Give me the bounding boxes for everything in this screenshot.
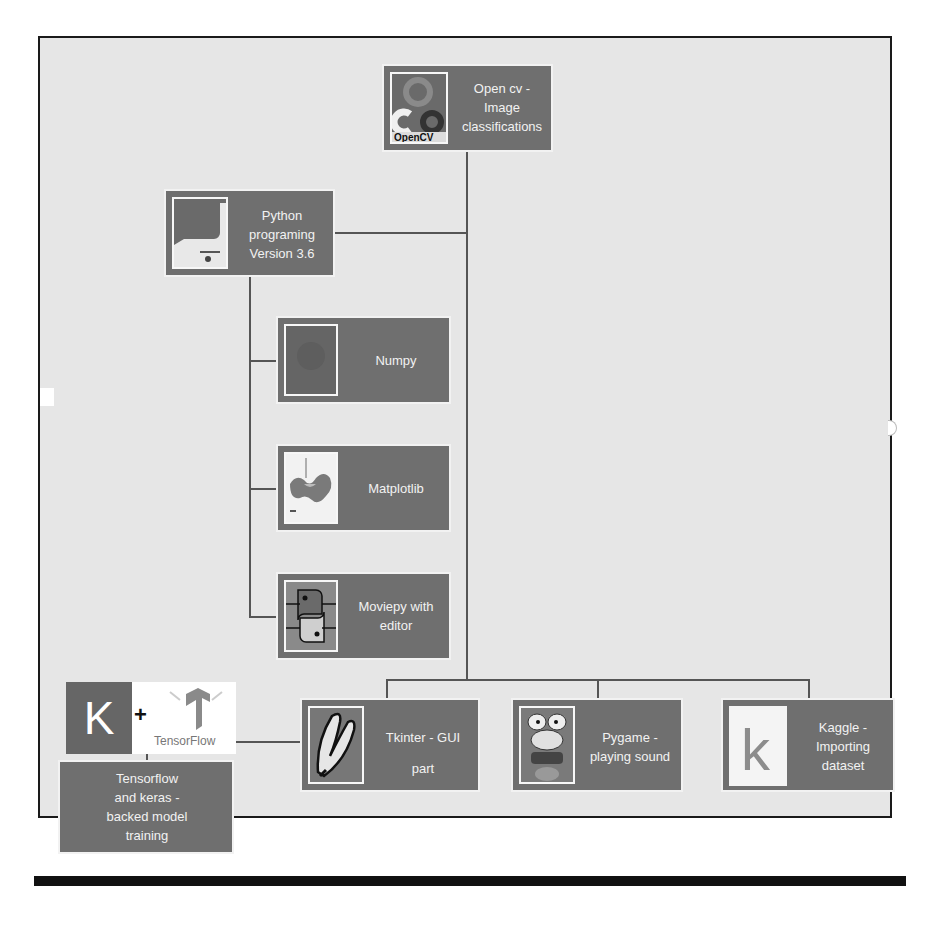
bottom-rule-divider xyxy=(34,876,906,886)
tensorflow-wordmark: TensorFlow xyxy=(154,734,215,748)
node-label-line: Tkinter - GUI xyxy=(370,728,476,747)
opencv-logo-icon: OpenCV xyxy=(390,72,448,144)
node-pygame[interactable]: Pygame - playing sound xyxy=(511,698,683,792)
connector-opencv-trunk xyxy=(466,150,468,680)
connector-kaggle xyxy=(808,679,810,699)
node-label-line: Numpy xyxy=(344,351,448,370)
node-label-line: editor xyxy=(344,616,448,635)
node-label-line: training xyxy=(64,826,230,845)
node-label-line: Importing xyxy=(793,737,893,756)
connector-tensorflow-tkinter xyxy=(234,741,302,743)
node-label-line: part xyxy=(370,759,476,778)
tensorflow-logo-icon xyxy=(166,686,226,732)
kaggle-k-icon: k xyxy=(729,706,787,786)
node-opencv[interactable]: OpenCV Open cv - Image classifications xyxy=(382,64,553,152)
plus-sign: + xyxy=(134,702,148,728)
connector-matplotlib xyxy=(249,488,277,490)
svg-text:k: k xyxy=(741,717,771,782)
node-label-line: Open cv - xyxy=(454,79,550,98)
node-label-line: programing xyxy=(232,225,332,244)
node-label-line: classifications xyxy=(454,117,550,136)
node-label-line: dataset xyxy=(793,756,893,775)
connector-pygame xyxy=(597,679,599,699)
node-label-line: Version 3.6 xyxy=(232,244,332,263)
matplotlib-plot-icon xyxy=(284,452,338,524)
node-label-line: Kaggle - xyxy=(793,718,893,737)
connector-numpy xyxy=(249,360,277,362)
node-numpy[interactable]: Numpy xyxy=(276,316,451,404)
node-tensorflow-keras[interactable]: Tensorflow and keras - backed model trai… xyxy=(58,760,234,854)
right-resize-handle[interactable] xyxy=(888,420,897,436)
left-resize-handle[interactable] xyxy=(40,388,54,406)
python-logo-icon xyxy=(172,197,228,269)
feather-icon xyxy=(308,706,364,784)
node-label-line: Matplotlib xyxy=(344,479,448,498)
node-python[interactable]: Python programing Version 3.6 xyxy=(164,189,335,277)
node-label-line: Pygame - xyxy=(579,728,681,747)
numpy-logo-icon xyxy=(284,324,338,396)
connector-tkinter xyxy=(386,679,388,699)
python-snakes-icon xyxy=(284,580,338,652)
node-label-line: backed model xyxy=(64,807,230,826)
node-label-line: Tensorflow xyxy=(64,769,230,788)
node-kaggle[interactable]: k Kaggle - Importing dataset xyxy=(721,698,895,792)
pygame-frog-icon xyxy=(519,706,575,784)
node-label-line: Moviepy with xyxy=(344,597,448,616)
connector-python-trunk xyxy=(249,276,251,618)
node-label-line: Image xyxy=(454,98,550,117)
node-label-line: and keras - xyxy=(64,788,230,807)
node-label-line: playing sound xyxy=(579,747,681,766)
keras-tensorflow-logo-icon: K + TensorFlow xyxy=(66,682,236,754)
connector-python-opencv xyxy=(334,232,467,234)
node-matplotlib[interactable]: Matplotlib xyxy=(276,444,451,532)
node-label-line: Python xyxy=(232,206,332,225)
keras-logo: K xyxy=(66,682,132,754)
node-tkinter[interactable]: Tkinter - GUI part xyxy=(300,698,480,792)
node-moviepy[interactable]: Moviepy with editor xyxy=(276,572,451,660)
svg-text:OpenCV: OpenCV xyxy=(394,132,434,142)
connector-moviepy xyxy=(249,616,277,618)
